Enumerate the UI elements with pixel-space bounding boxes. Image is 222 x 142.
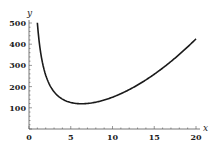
y-axis-label: y [26,8,33,18]
x-tick-label: 0 [26,132,32,142]
y-tick-label: 300 [9,60,26,70]
x-tick-label: 20 [190,132,202,142]
x-tick-label: 15 [149,132,160,142]
x-tick-label: 5 [68,132,74,142]
y-tick-label: 200 [9,82,26,92]
y-tick-label: 100 [9,103,26,113]
axes [29,20,200,129]
data-curve [37,23,196,104]
x-tick-label: 10 [107,132,119,142]
y-tick-label: 500 [9,18,26,28]
x-axis-label: x [203,123,208,133]
line-chart: 05101520100200300400500 x y [0,0,222,142]
y-tick-label: 400 [9,39,26,49]
